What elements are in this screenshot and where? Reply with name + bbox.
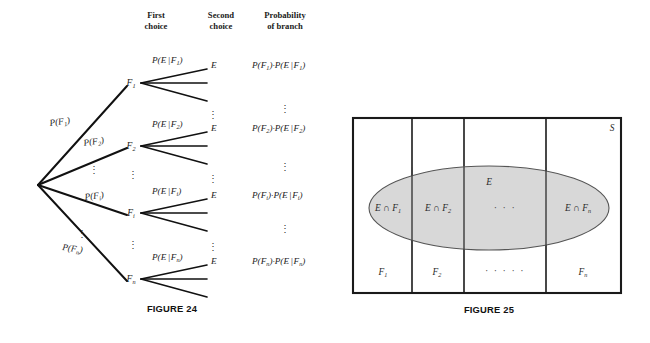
svg-text:F2: F2: [126, 140, 136, 152]
subbranch-4-bottom: [141, 279, 207, 297]
sample-space-label: S: [610, 123, 615, 133]
figure-canvas: First choice Second choice Probability o…: [0, 0, 650, 343]
header-first-choice-line2: choice: [145, 21, 168, 31]
figures-svg: First choice Second choice Probability o…: [0, 0, 650, 343]
intersection-ellipsis: · · ·: [494, 202, 517, 213]
vdots-outcome-2: ⋮: [208, 173, 218, 184]
intersection-label-n: E ∩ Fn: [564, 203, 591, 214]
header-first-choice-line1: First: [147, 10, 165, 20]
figure-25-group: S E E ∩ F1 E ∩ F2 · · · E ∩ Fn: [353, 118, 621, 315]
svg-text:E ∩ Fn: E ∩ Fn: [564, 203, 591, 214]
header-probability-line2: of branch: [267, 21, 303, 31]
vdots-node-2: ⋮: [128, 239, 138, 250]
trunk-branch-1: [38, 86, 127, 185]
node-Fi-sub: i: [133, 212, 135, 219]
branch-prob-4-close: ): [301, 256, 305, 266]
svg-text:P(Fi): P(Fi): [83, 190, 104, 204]
svg-text:P(E|F2): P(E|F2): [151, 119, 183, 130]
subbranch-1-bottom: [141, 83, 207, 101]
figure-24-caption: FIGURE 24: [147, 303, 198, 314]
vdots-outcome-1: ⋮: [208, 109, 218, 120]
intersection-1-sub: 1: [398, 207, 401, 214]
partition-ellipsis: · · · · ·: [485, 265, 525, 276]
svg-text:F2: F2: [432, 267, 442, 278]
vdots-prob-3: ⋮: [280, 223, 290, 234]
vdots-prob-2: ⋮: [280, 161, 290, 172]
branch-prob-2-mid: )·P(E: [268, 123, 289, 133]
partition-1-sub: 1: [384, 271, 387, 278]
node-label-Fi: Fi: [126, 207, 135, 219]
branch-probability-1: P(F1)·P(E|F1): [251, 60, 305, 71]
first-prob-3-text: P(F: [83, 190, 100, 202]
column-header-first-choice: First choice: [145, 10, 168, 31]
branch-label-first-prob-2: P(F2): [82, 135, 105, 149]
second-prob-2-close: ): [179, 119, 183, 129]
branch-prob-3-mid: )·P(E: [267, 190, 288, 200]
subbranch-3-top: [141, 199, 207, 213]
figure-25-caption: FIGURE 25: [464, 304, 514, 315]
branch-prob-1-mid: )·P(E: [268, 60, 289, 70]
subbranch-2-top: [141, 132, 207, 146]
node-F2-sub: 2: [132, 145, 135, 152]
svg-text:Fi: Fi: [126, 207, 135, 219]
second-prob-3-pre: P(E: [151, 186, 167, 196]
branch-label-first-prob-3: P(Fi): [83, 190, 104, 204]
figure-24-group: First choice Second choice Probability o…: [38, 10, 306, 314]
outcome-label-4: E: [210, 256, 217, 266]
subbranches-group-3: [141, 199, 207, 231]
branch-prob-2-close: ): [301, 123, 305, 133]
branch-prob-3-a: P(F: [251, 190, 267, 200]
second-prob-4-pre: P(E: [151, 252, 167, 262]
intersection-n-sub: n: [588, 207, 591, 214]
node-Fn-sub: n: [132, 278, 135, 285]
subbranches-group-2: [141, 132, 207, 164]
branch-label-second-prob-4: P(E|Fn): [151, 252, 183, 263]
column-header-probability-of-branch: Probability of branch: [264, 10, 306, 31]
trunk-branch-2: [38, 148, 127, 185]
svg-text:P(E|Fi): P(E|Fi): [151, 186, 181, 197]
svg-text:P(Fn)·P(E|Fn): P(Fn)·P(E|Fn): [251, 256, 305, 267]
vdots-node-1: ⋮: [128, 169, 138, 180]
branch-label-first-prob-1: P(F1): [48, 115, 71, 129]
svg-text:Fn: Fn: [126, 273, 136, 285]
partition-n-sub: n: [584, 271, 587, 278]
svg-text:E ∩ F1: E ∩ F1: [374, 203, 401, 214]
branch-label-second-prob-2: P(E|F2): [151, 119, 183, 130]
svg-text:P(Fi)·P(E|Fi): P(Fi)·P(E|Fi): [251, 190, 303, 201]
subbranch-3-bottom: [141, 213, 207, 231]
partition-label-2: F2: [432, 267, 442, 278]
svg-text:P(E|Fn): P(E|Fn): [151, 252, 183, 263]
branch-probability-3: P(Fi)·P(E|Fi): [251, 190, 303, 201]
column-header-second-choice: Second choice: [208, 10, 234, 31]
branch-probability-2: P(F2)·P(E|F2): [251, 123, 305, 134]
branch-prob-3-close: ): [299, 190, 303, 200]
second-prob-3-close: ): [177, 186, 181, 196]
first-prob-2-text: P(F: [82, 136, 99, 148]
svg-text:P(F1)·P(E|F1): P(F1)·P(E|F1): [251, 60, 305, 71]
branch-prob-1-a: P(F: [251, 60, 267, 70]
header-second-choice-line2: choice: [210, 21, 233, 31]
branch-prob-2-a: P(F: [251, 123, 267, 133]
intersection-2-text: E ∩ F: [424, 203, 448, 213]
branch-prob-1-close: ): [301, 60, 305, 70]
subbranch-1-top: [141, 69, 207, 83]
node-label-F2: F2: [126, 140, 136, 152]
trunk-branches: [38, 86, 127, 281]
svg-text:E ∩ F2: E ∩ F2: [424, 203, 451, 214]
outcome-label-2: E: [210, 123, 217, 133]
outcome-label-3: E: [210, 190, 217, 200]
intersection-label-2: E ∩ F2: [424, 203, 451, 214]
svg-text:P(F2)·P(E|F2): P(F2)·P(E|F2): [251, 123, 305, 134]
outcome-label-1: E: [210, 60, 217, 70]
svg-text:Fn: Fn: [578, 267, 588, 278]
branch-label-second-prob-3: P(E|Fi): [151, 186, 181, 197]
first-prob-4-text: P(F: [61, 242, 78, 254]
second-prob-2-pre: P(E: [151, 119, 167, 129]
intersection-label-1: E ∩ F1: [374, 203, 401, 214]
partition-2-sub: 2: [438, 271, 441, 278]
node-label-Fn: Fn: [126, 273, 136, 285]
second-prob-4-close: ): [179, 252, 183, 262]
vdots-outcome-3: ⋮: [208, 241, 218, 252]
svg-text:F1: F1: [126, 77, 136, 89]
branch-probability-4: P(Fn)·P(E|Fn): [251, 256, 305, 267]
